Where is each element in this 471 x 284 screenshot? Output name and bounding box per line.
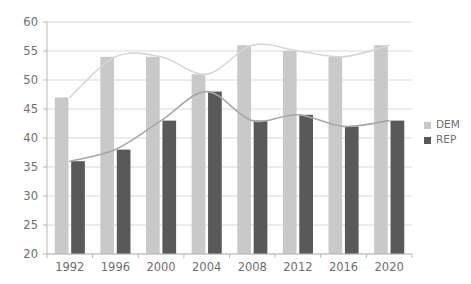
bar-rep-1992 [71,161,85,254]
x-tick-label: 2016 [329,260,358,274]
bar-rep-2012 [299,115,313,254]
x-tick-label: 1992 [55,260,84,274]
bar-dem-2004 [192,74,206,254]
y-axis-labels: 202530354045505560 [23,15,47,261]
y-tick-label: 60 [23,15,38,29]
bar-rep-2000 [162,121,176,254]
bar-dem-2016 [329,57,343,254]
y-tick-label: 55 [23,44,38,58]
legend-label-dem: DEM [436,118,460,130]
bar-dem-2012 [283,51,297,254]
legend-swatch-dem [424,122,431,129]
x-tick-label: 2012 [283,260,312,274]
bar-chart: 2025303540455055601992199620002004200820… [0,0,471,284]
x-tick-label: 2020 [375,260,404,274]
x-tick-label: 1996 [101,260,130,274]
y-tick-label: 30 [23,189,38,203]
legend-label-rep: REP [436,133,456,145]
y-tick-label: 20 [23,247,38,261]
bar-rep-1996 [117,150,131,254]
y-tick-label: 35 [23,160,38,174]
y-tick-label: 25 [23,218,38,232]
bar-rep-2008 [254,121,268,254]
chart-container: 2025303540455055601992199620002004200820… [0,0,471,284]
bar-dem-2020 [374,45,388,254]
bar-rep-2016 [345,126,359,254]
bar-rep-2004 [208,92,222,254]
legend: DEMREP [424,118,460,145]
y-tick-label: 50 [23,73,38,87]
bar-dem-1992 [55,97,69,254]
x-tick-label: 2000 [146,260,175,274]
x-tick-label: 2008 [238,260,267,274]
bar-dem-1996 [100,57,114,254]
bar-group [55,45,404,254]
x-tick-label: 2004 [192,260,221,274]
bar-dem-2000 [146,57,160,254]
x-axis-labels: 19921996200020042008201220162020 [47,254,412,274]
bar-rep-2020 [391,121,405,254]
y-tick-label: 45 [23,102,38,116]
legend-swatch-rep [424,137,431,144]
y-tick-label: 40 [23,131,38,145]
bar-dem-2008 [237,45,251,254]
